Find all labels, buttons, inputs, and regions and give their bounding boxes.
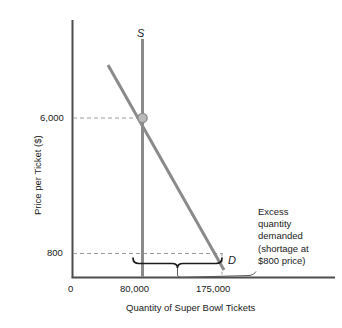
supply-curve-label: S — [137, 27, 144, 39]
y-axis-title: Price per Ticket ($) — [32, 135, 43, 215]
demand-curve-label: D — [228, 254, 236, 266]
ytick-label-800: 800 — [47, 247, 63, 258]
xtick-label-80000: 80,000 — [120, 283, 149, 294]
annotation-pointer-line — [178, 268, 257, 277]
excess-quantity-brace — [133, 258, 222, 268]
xtick-label-0: 0 — [68, 283, 73, 294]
ytick-label-6000: 6,000 — [40, 112, 64, 123]
xtick-label-175000: 175,000 — [196, 283, 230, 294]
annotation-line-5: $800 price) — [258, 255, 342, 267]
annotation-line-4: (shortage at — [258, 243, 342, 255]
annotation-line-2: quantity — [258, 218, 342, 230]
x-axis-title: Quantity of Super Bowl Tickets — [126, 302, 255, 313]
chart-figure: 6,000 800 0 80,000 175,000 Quantity of S… — [0, 0, 342, 328]
annotation-line-1: Excess — [258, 206, 342, 218]
demand-curve — [108, 65, 224, 270]
equilibrium-point-marker — [138, 113, 147, 122]
annotation-line-3: demanded — [258, 230, 342, 242]
chart-canvas — [0, 0, 342, 328]
excess-quantity-annotation: Excess quantity demanded (shortage at $8… — [258, 206, 342, 267]
